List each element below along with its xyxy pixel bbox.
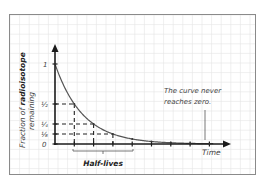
y-axis-arrow-icon: [52, 44, 59, 52]
annotation-line-2: reaches zero.: [164, 98, 211, 106]
y-axis-label: Fraction of radioisotope: [18, 52, 27, 148]
y-tick-label-0: 0: [42, 141, 47, 149]
annotation-line-1: The curve never: [164, 87, 222, 95]
y-tick-label-eighth: ⅛: [41, 131, 48, 139]
y-axis-label-bold: radioisotope: [18, 52, 27, 105]
y-tick-label-1: 1: [43, 61, 47, 69]
half-lives-bracket: [73, 149, 133, 154]
half-life-guide-lines: [55, 104, 113, 144]
y-tick-label-quarter: ¼: [41, 121, 48, 129]
x-axis-label: Time: [202, 148, 221, 157]
x-axis-arrow-icon: [223, 141, 231, 148]
y-tick-label-half: ½: [41, 101, 48, 109]
half-lives-label: Half-lives: [83, 159, 123, 168]
y-axis-label-line2: remaining: [27, 92, 36, 130]
half-life-chart: 1 ½ ¼ ⅛ 0 Fraction of radioisotope remai…: [0, 0, 267, 183]
